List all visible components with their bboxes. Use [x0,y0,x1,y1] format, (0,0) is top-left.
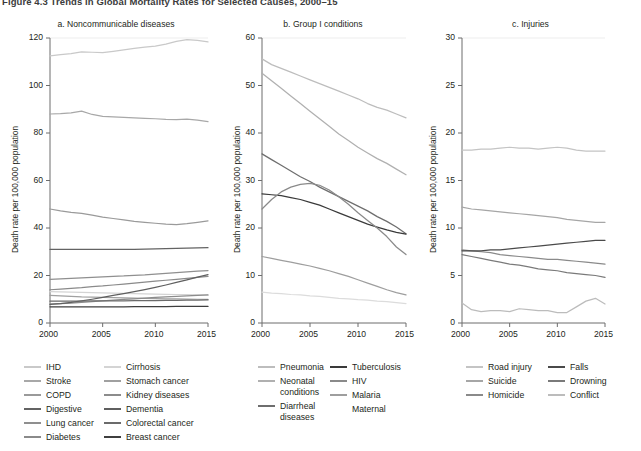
legend-label: Stroke [46,376,71,387]
legend-label: Dementia [126,404,163,415]
series-line [462,250,605,264]
series-line [50,248,208,250]
legend-entry[interactable]: Dementia [104,404,194,415]
legend-label: Breast cancer [126,432,180,443]
legend-color-swatch [104,380,121,382]
legend-color-swatch [548,394,565,396]
legend-column: CirrhosisStomach cancerKidney diseasesDe… [104,362,194,446]
legend-color-swatch [330,394,347,396]
legend-label: IHD [46,362,61,373]
series-line [262,292,406,303]
series-line [262,59,406,118]
legend-entry[interactable]: Digestive [24,404,104,415]
legend-label: Drowning [570,376,607,387]
legend-entry[interactable]: Stroke [24,376,104,387]
legend-entry[interactable]: Malaria [330,390,401,401]
legend-entry[interactable]: Road injury [466,362,548,373]
series-line [462,207,605,222]
series-line [50,111,208,121]
legend-entry[interactable]: Maternal [330,404,401,415]
legend-label: Road injury [488,362,532,373]
legend-label: Malaria [352,390,381,401]
legend-entry[interactable]: Diabetes [24,432,104,443]
legend-panel-c: Road injurySuicideHomicideFallsDrowningC… [466,362,607,404]
legend-color-swatch [24,422,41,424]
series-line [262,183,406,254]
legend-color-swatch [24,366,41,368]
legend-entry[interactable]: HIV [330,376,401,387]
legend-label: Diabetes [46,432,80,443]
legend-color-swatch [330,408,347,410]
legend-column: Road injurySuicideHomicide [466,362,548,404]
legend-entry[interactable]: Drowning [548,376,607,387]
legend-label: Cirrhosis [126,362,160,373]
chart-svg-c [418,30,641,345]
plot-area-c: 0510152025302000200520102015Death rate p… [418,30,641,345]
legend-entry[interactable]: Breast cancer [104,432,194,443]
legend-label: Homicide [488,390,524,401]
panel-a-title: a. Noncommunicable diseases [0,18,222,30]
figure-title: Figure 4.3 Trends in Global Mortality Ra… [2,0,338,7]
legend-color-swatch [330,366,347,368]
series-line [462,240,605,250]
chart-svg-a [0,30,222,345]
legend-entry[interactable]: Falls [548,362,607,373]
legend-panel-b: PneumoniaNeonatal conditionsDiarrheal di… [258,362,401,426]
y-axis-title: Death rate per 100,000 population [232,125,242,252]
legend-column: TuberculosisHIVMalariaMaternal [330,362,401,426]
legend-label: Neonatal conditions [280,376,330,398]
legend-entry[interactable]: Suicide [466,376,548,387]
legend-label: Digestive [46,404,82,415]
legend-color-swatch [104,436,121,438]
legend-entry[interactable]: Neonatal conditions [258,376,330,398]
legend-color-swatch [258,380,275,382]
legend-label: Pneumonia [280,362,324,373]
legend-column: FallsDrowningConflict [548,362,607,404]
legend-label: Tuberculosis [352,362,401,373]
series-line [462,147,605,151]
legend-color-swatch [330,380,347,382]
legend-color-swatch [24,394,41,396]
legend-color-swatch [548,380,565,382]
legend-entry[interactable]: IHD [24,362,104,373]
legend-color-swatch [104,408,121,410]
panel-noncommunicable-diseases: a. Noncommunicable diseases 020406080100… [0,18,222,345]
legend-label: Diarrheal diseases [280,401,330,423]
legend-color-swatch [466,394,483,396]
chart-svg-b [222,30,418,345]
y-axis-title: Death rate per 100,000 population [10,125,20,252]
legend-entry[interactable]: Lung cancer [24,418,104,429]
legend-entry[interactable]: Cirrhosis [104,362,194,373]
series-line [262,194,406,234]
legend-color-swatch [258,366,275,368]
legend-entry[interactable]: Diarrheal diseases [258,401,330,423]
legend-entry[interactable]: COPD [24,390,104,401]
legend-entry[interactable]: Homicide [466,390,548,401]
legend-entry[interactable]: Tuberculosis [330,362,401,373]
legend-label: Falls [570,362,588,373]
legend-entry[interactable]: Colorectal cancer [104,418,194,429]
legend-entry[interactable]: Kidney diseases [104,390,194,401]
legend-entry[interactable]: Conflict [548,390,607,401]
panel-c-title: c. Injuries [418,18,641,30]
series-line [50,40,208,56]
legend-color-swatch [548,366,565,368]
plot-area-b: 01020304050602000200520102015Death rate … [222,30,418,345]
legend-color-swatch [466,380,483,382]
y-axis-title: Death rate per 100,000 population [428,125,438,252]
legend-label: Colorectal cancer [126,418,194,429]
legend-color-swatch [466,366,483,368]
legend-panel-a: IHDStrokeCOPDDigestiveLung cancerDiabete… [24,362,194,446]
legend-entry[interactable]: Pneumonia [258,362,330,373]
legend-column: IHDStrokeCOPDDigestiveLung cancerDiabete… [24,362,104,446]
series-line [262,257,406,295]
panel-group-i-conditions: b. Group I conditions 010203040506020002… [222,18,418,345]
plot-area-a: 0204060801001202000200520102015Death rat… [0,30,222,345]
legend-color-swatch [24,408,41,410]
legend-column: PneumoniaNeonatal conditionsDiarrheal di… [258,362,330,426]
legend-label: COPD [46,390,71,401]
legend-entry[interactable]: Stomach cancer [104,376,194,387]
legend-label: Kidney diseases [126,390,189,401]
legend-label: Conflict [570,390,599,401]
legend-label: Suicide [488,376,517,387]
